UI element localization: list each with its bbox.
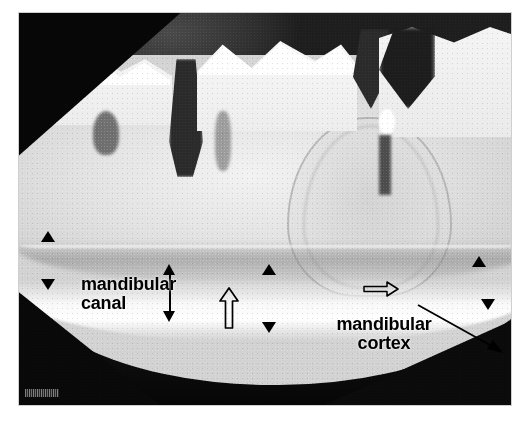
canal-roof-hollow-arrow: [219, 287, 239, 329]
marker-canal-left-superior: [41, 231, 55, 242]
radiograph-figure: mandibular canal mandibular cortex: [0, 0, 530, 424]
burned-in-identifier: [25, 389, 59, 397]
label-mandibular-canal: mandibular canal: [81, 275, 176, 313]
mandibular-canal-roof-line: [19, 245, 512, 248]
marker-canal-mid-inferior: [262, 322, 276, 333]
root-canal-shadow: [379, 135, 391, 195]
molar-tooth-middle: [197, 41, 357, 241]
molar-tooth-right: [379, 27, 512, 237]
marker-canal-right-superior: [472, 256, 486, 267]
pulp-chamber: [215, 111, 231, 171]
label-mandibular-cortex: mandibular cortex: [325, 315, 443, 353]
radiograph-plate: mandibular canal mandibular cortex: [18, 12, 512, 406]
enamel-highlight: [379, 109, 395, 135]
marker-canal-mid-superior: [262, 264, 276, 275]
enamel-edge: [199, 43, 355, 75]
pulp-chamber: [93, 111, 119, 155]
marker-canal-left-inferior: [41, 279, 55, 290]
cortex-hollow-arrow: [363, 281, 399, 297]
